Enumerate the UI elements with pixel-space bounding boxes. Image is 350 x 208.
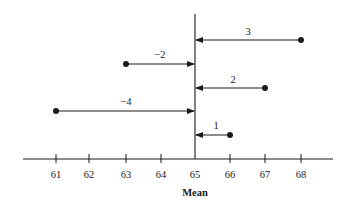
deviation-arrow-neg4: −4 [53,96,194,114]
data-point-dot [123,61,129,67]
data-point-dot [53,108,59,114]
x-axis-title: Mean [182,187,208,198]
tick-label-68: 68 [296,169,307,180]
deviation-arrow-neg2: −2 [123,49,194,67]
deviation-label: 3 [245,26,250,37]
tick-label-65: 65 [190,169,201,180]
data-point-dot [262,85,268,91]
deviation-arrow-1: 1 [196,120,233,138]
tick-label-61: 61 [51,169,62,180]
deviation-arrow-2: 2 [196,74,268,91]
tick-label-67: 67 [260,169,271,180]
data-point-dot [298,37,304,43]
tick-label-62: 62 [84,169,95,180]
deviation-arrow-3: 3 [196,26,304,43]
deviation-diagram: 61 62 63 64 65 66 67 68 Mean 3 −2 2 −4 1 [0,0,350,208]
deviation-label: −2 [154,49,165,60]
deviation-label: 1 [213,120,218,131]
x-axis-tick-labels: 61 62 63 64 65 66 67 68 [51,169,307,180]
data-point-dot [227,132,233,138]
deviation-label: −4 [120,96,132,107]
deviation-label: 2 [230,74,235,85]
tick-label-66: 66 [225,169,236,180]
tick-label-64: 64 [156,169,167,180]
tick-label-63: 63 [121,169,132,180]
